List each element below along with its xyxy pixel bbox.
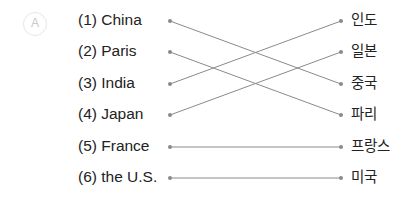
connection-dot[interactable] (339, 19, 343, 23)
connection-dot[interactable] (168, 82, 172, 86)
matching-lines (0, 0, 418, 200)
connection-dot[interactable] (168, 145, 172, 149)
connection-dot[interactable] (168, 113, 172, 117)
connection-dot[interactable] (339, 50, 343, 54)
connection-dot[interactable] (168, 19, 172, 23)
connection-dot[interactable] (339, 82, 343, 86)
connection-dot[interactable] (339, 113, 343, 117)
connection-dot[interactable] (339, 176, 343, 180)
connection-dot[interactable] (168, 50, 172, 54)
connection-dot[interactable] (339, 145, 343, 149)
connection-dot[interactable] (168, 176, 172, 180)
